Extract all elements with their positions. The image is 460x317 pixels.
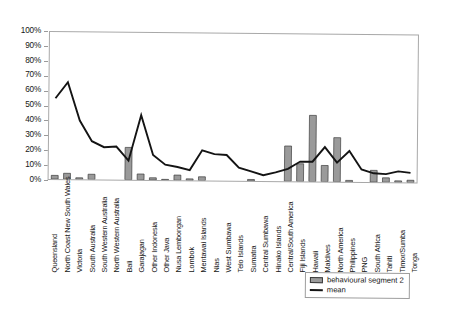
x-axis-labels: QueenslandNorth Coast New South WalesVic… (49, 182, 421, 272)
bar (297, 164, 304, 182)
x-axis-tick-label: Hawaii (311, 251, 318, 272)
legend-label-line: mean (327, 286, 346, 294)
x-axis-tick-label: Central Sumbawa (262, 216, 269, 273)
bar (162, 179, 169, 180)
y-axis-tick-label: 40% (25, 116, 41, 124)
y-axis-tick-label: 10% (25, 161, 41, 169)
y-axis-tick-label: 0% (30, 176, 41, 184)
x-axis-tick-label: Bali (125, 260, 132, 272)
x-axis-tick-label: Other Indonesia (150, 222, 157, 272)
y-axis-tick-label: 20% (25, 146, 41, 154)
y-axis-tick-label: 30% (25, 131, 41, 139)
x-axis-tick-label: Tahiti (386, 256, 393, 272)
legend-item-bar: behavioural segment 2 (310, 276, 404, 285)
legend-label-bar: behavioural segment 2 (327, 276, 404, 285)
y-axis-tick-mark (44, 31, 48, 32)
y-axis-tick-mark (44, 61, 48, 62)
x-axis-tick-label: North Western Australia (113, 198, 120, 272)
x-axis-tick-label: Sumatra (249, 245, 256, 272)
legend-bar-swatch-icon (310, 277, 323, 283)
x-axis-tick-label: PNG (361, 256, 368, 272)
x-axis-tick-label: Fiji Islands (299, 239, 306, 272)
legend-line-swatch-icon (310, 289, 323, 292)
x-axis-tick-label: Telo Islands (237, 235, 244, 272)
y-axis-tick-label: 90% (25, 42, 41, 50)
bar (137, 174, 144, 180)
y-axis-tick-label: 50% (25, 101, 41, 109)
x-axis-tick-label: Other Java (163, 237, 170, 272)
y-axis-tick-mark (44, 46, 48, 47)
plot-area (48, 31, 419, 184)
bar (149, 178, 156, 180)
y-axis-tick-label: 60% (25, 86, 41, 94)
bar (76, 178, 83, 180)
bar (174, 175, 181, 180)
x-axis-tick-label: North Coast New South Wales (63, 176, 70, 272)
x-axis-tick-label: West Sumbawa (225, 222, 232, 272)
bar (309, 115, 317, 181)
x-axis-tick-label: Garajagan (138, 239, 145, 272)
x-axis-tick-label: Victoria (76, 249, 83, 272)
bar (186, 179, 193, 181)
x-axis-tick-label: Queensland (51, 234, 58, 272)
bar (284, 146, 291, 181)
x-axis-tick-label: Maldives (324, 244, 331, 272)
bar (321, 165, 328, 181)
x-axis-tick-label: North America (336, 227, 343, 272)
x-axis-tick-label: Nias (212, 258, 219, 272)
y-axis-tick-mark (44, 76, 48, 77)
y-axis-tick-label: 80% (25, 57, 41, 65)
x-axis-tick-label: Tonga (411, 253, 418, 272)
bar (198, 177, 205, 181)
legend-item-line: mean (310, 286, 404, 295)
bar (51, 175, 58, 179)
y-axis: 0%10%20%30%40%50%60%70%80%90%100% (0, 24, 48, 189)
bar (248, 179, 255, 181)
x-axis-tick-label: South Western Australia (101, 196, 108, 272)
y-axis-tick-mark (44, 91, 48, 92)
y-axis-tick-mark (44, 180, 48, 181)
chart-container: 0%10%20%30%40%50%60%70%80%90%100% Queens… (0, 0, 460, 317)
x-axis-tick-label: Nusa Lembongan (175, 216, 182, 272)
x-axis-tick-label: Hinako Islands (274, 226, 281, 272)
plot-svg (49, 32, 418, 183)
x-axis-tick-label: Mentawai Islands (200, 217, 207, 272)
chart-legend: behavioural segment 2 mean (305, 272, 410, 299)
x-axis-tick-label: Central/South America (287, 201, 294, 272)
bar (88, 174, 95, 179)
x-axis-tick-label: Timor/Sumba (398, 230, 405, 272)
x-axis-tick-label: Philippines (349, 238, 356, 272)
y-axis-tick-label: 70% (25, 71, 41, 79)
x-axis-tick-label: South Australia (88, 225, 95, 272)
x-axis-tick-label: Lombok (187, 247, 194, 272)
y-axis-tick-label: 100% (21, 27, 41, 35)
mean-line-series (55, 82, 412, 177)
x-axis-tick-label: South Africa (373, 234, 380, 272)
